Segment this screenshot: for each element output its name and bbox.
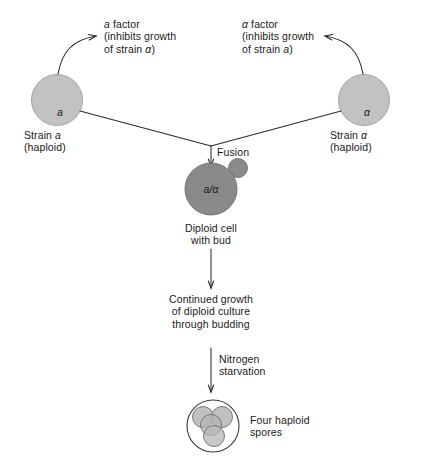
a-factor-arrow bbox=[58, 36, 96, 74]
four-haploid-spores-label: Four haploid spores bbox=[250, 414, 310, 439]
nitrogen-starvation-label: Nitrogen starvation bbox=[219, 353, 266, 378]
strain-alpha-label: Strain α (haploid) bbox=[330, 129, 372, 154]
diploid-cell-label: Diploid cell with bud bbox=[151, 222, 271, 247]
a-factor-label: a factor (inhibits growth of strain α) bbox=[104, 18, 176, 55]
mating-line-right bbox=[211, 111, 341, 146]
haploid-cell-a-glyph: a bbox=[47, 94, 67, 118]
haploid-cell-alpha-glyph: α bbox=[354, 94, 374, 118]
alpha-factor-arrow bbox=[325, 36, 363, 74]
diploid-cell-glyph: a/α bbox=[194, 183, 228, 195]
spore-4 bbox=[204, 426, 225, 447]
alpha-factor-label: α factor (inhibits growth of strain a) bbox=[242, 18, 314, 55]
mating-line-left bbox=[80, 111, 211, 146]
continued-growth-label: Continued growth of diploid culture thro… bbox=[141, 293, 281, 330]
strain-a-label: Strain a (haploid) bbox=[24, 129, 66, 154]
fusion-label: Fusion bbox=[217, 146, 249, 158]
